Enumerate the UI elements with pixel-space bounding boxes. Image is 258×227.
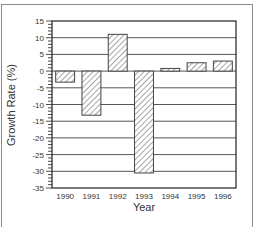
x-tick-label: 1994: [161, 192, 179, 201]
bar-1991: [82, 71, 101, 115]
bar-chart: 151050-5-10-15-20-25-30-35 1990199119921…: [0, 0, 258, 227]
bar-1996: [213, 61, 232, 71]
x-axis-ticks: 1990199119921993199419951996: [56, 192, 232, 201]
y-axis-title: Growth Rate (%): [5, 64, 17, 146]
x-tick-label: 1995: [188, 192, 206, 201]
x-tick-label: 1990: [56, 192, 74, 201]
bar-1993: [135, 71, 154, 173]
x-tick-label: 1992: [109, 192, 127, 201]
bar-1990: [56, 71, 75, 82]
y-tick-label: -30: [32, 167, 44, 176]
bar-1992: [108, 34, 127, 71]
y-tick-label: -15: [32, 117, 44, 126]
x-tick-label: 1993: [135, 192, 153, 201]
x-tick-label: 1991: [83, 192, 101, 201]
y-tick-label: -25: [32, 151, 44, 160]
bar-1995: [187, 63, 206, 71]
x-axis-title: Year: [133, 201, 156, 213]
y-axis-ticks: 151050-5-10-15-20-25-30-35: [32, 17, 52, 193]
y-tick-label: -35: [32, 184, 44, 193]
x-tick-label: 1996: [214, 192, 232, 201]
y-tick-label: -5: [37, 84, 45, 93]
y-tick-label: -20: [32, 134, 44, 143]
y-tick-label: 0: [40, 67, 45, 76]
y-tick-label: 5: [40, 50, 45, 59]
bar-1994: [161, 68, 180, 71]
y-tick-label: 15: [35, 17, 44, 26]
y-tick-label: -10: [32, 101, 44, 110]
bars: [56, 34, 233, 173]
y-tick-label: 10: [35, 34, 44, 43]
